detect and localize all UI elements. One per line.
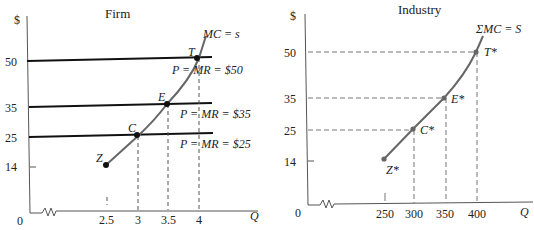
figure: Firm $ 0 Q 50 35 25 14 MC = s T E C Z P … [0, 0, 534, 230]
firm-x-tick-3: 3 [135, 213, 141, 227]
industry-y-label: $ [290, 9, 296, 23]
price-label-35: P = MR = $35 [179, 107, 251, 121]
firm-x-label: Q [250, 209, 259, 223]
label-t-star: T* [484, 45, 497, 59]
point-c-star [410, 126, 415, 131]
firm-title: Firm [105, 6, 130, 21]
industry-chart: Industry $ 0 Q 50 35 25 14 ΣMC = S T* E*… [284, 2, 533, 221]
label-z-star: Z* [386, 163, 399, 177]
point-z-star [381, 156, 386, 161]
firm-chart: Firm $ 0 Q 50 35 25 14 MC = s T E C Z P … [5, 6, 259, 228]
firm-y-tick-35: 35 [5, 101, 17, 115]
point-t [194, 55, 200, 61]
label-e: E [157, 90, 166, 104]
industry-x-tick-250: 250 [376, 207, 394, 221]
industry-x-tick-400: 400 [468, 207, 486, 221]
industry-x-tick-350: 350 [436, 207, 454, 221]
industry-y-tick-14: 14 [284, 155, 296, 169]
industry-x-label: Q [520, 205, 529, 219]
firm-x-tick-2.5: 2.5 [99, 213, 114, 227]
sigma-mc-label: ΣMC = S [475, 22, 521, 36]
firm-y-tick-14: 14 [5, 160, 17, 174]
label-z: Z [96, 151, 103, 165]
firm-x-tick-4: 4 [196, 213, 202, 227]
price-label-50: P = MR = $50 [171, 63, 243, 77]
label-c: C [128, 121, 137, 135]
industry-y-tick-25: 25 [284, 124, 296, 138]
point-e-star [441, 95, 446, 100]
firm-x-axis [30, 208, 258, 216]
industry-y-axis [305, 14, 308, 205]
mc-label: MC = s [202, 27, 240, 41]
point-z [103, 162, 109, 168]
label-e-star: E* [450, 92, 464, 106]
firm-y-label: $ [14, 13, 20, 27]
industry-origin: 0 [295, 206, 301, 220]
price-line-50 [27, 57, 212, 61]
industry-y-tick-50: 50 [284, 46, 296, 60]
firm-origin: 0 [17, 214, 23, 228]
price-label-25: P = MR = $25 [179, 137, 251, 151]
firm-y-axis [27, 16, 30, 213]
label-c-star: C* [420, 123, 434, 137]
point-t-star [473, 49, 478, 54]
firm-y-tick-25: 25 [5, 131, 17, 145]
firm-y-tick-50: 50 [5, 55, 17, 69]
firm-x-tick-3.5: 3.5 [161, 213, 176, 227]
industry-y-tick-35: 35 [284, 92, 296, 106]
industry-x-tick-300: 300 [405, 207, 423, 221]
industry-title: Industry [398, 2, 442, 17]
